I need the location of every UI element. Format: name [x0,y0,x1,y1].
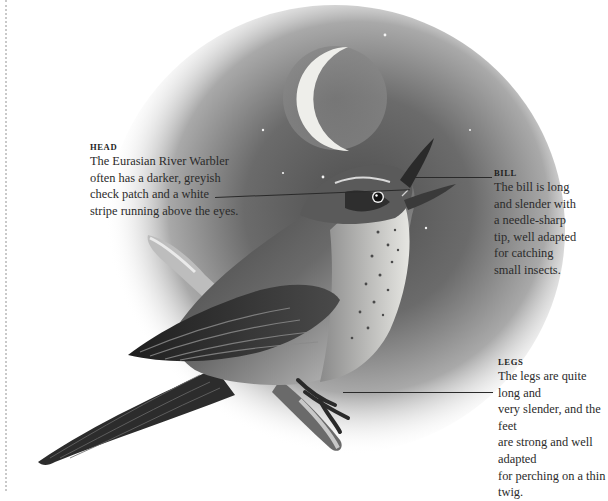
head-callout-text: The Eurasian River Warbler often has a d… [90,153,290,219]
legs-callout-heading: LEGS [498,357,608,368]
bird-tail [38,368,235,465]
bill-callout-heading: BILL [494,168,604,179]
bill-callout-text: The bill is long and slender with a need… [494,179,604,279]
legs-callout-text: The legs are quite long and very slender… [498,368,608,501]
legs-leader-line [343,392,493,393]
head-callout: HEAD The Eurasian River Warbler often ha… [90,142,290,219]
bill-callout: BILL The bill is long and slender with a… [494,168,604,279]
head-callout-heading: HEAD [90,142,290,153]
legs-callout: LEGS The legs are quite long and very sl… [498,357,608,501]
bird-eye-icon [372,191,384,203]
bill-leader-line [412,177,492,178]
